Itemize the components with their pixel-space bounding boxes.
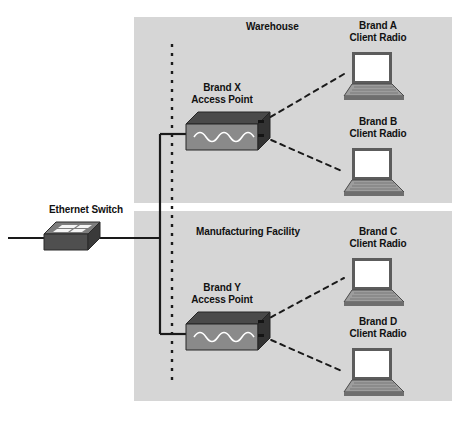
network-diagram: Warehouse Manufacturing Facility Etherne… [0, 0, 466, 422]
access-point-y-label-line1: Brand Y [182, 282, 262, 294]
client-radio-c-label-line2: Client Radio [340, 238, 416, 250]
client-radio-d-label-line1: Brand D [340, 316, 416, 328]
zone-label-manufacturing: Manufacturing Facility [196, 226, 300, 237]
client-radio-d-label-line2: Client Radio [340, 328, 416, 340]
access-point-x-label-line1: Brand X [182, 82, 262, 94]
ethernet-switch-label: Ethernet Switch [36, 204, 136, 216]
access-point-x-label-line2: Access Point [182, 94, 262, 106]
access-point-x-icon [186, 112, 270, 150]
client-radio-a-label-line2: Client Radio [340, 32, 416, 44]
client-radio-b-label-line2: Client Radio [340, 128, 416, 140]
zone-warehouse-panel [134, 17, 452, 203]
client-radio-c-label-line1: Brand C [340, 226, 416, 238]
ethernet-switch-icon [44, 222, 100, 250]
zone-label-warehouse: Warehouse [246, 21, 299, 32]
access-point-y-icon [186, 312, 270, 350]
access-point-y-label-line2: Access Point [182, 294, 262, 306]
client-radio-b-label-line1: Brand B [340, 116, 416, 128]
client-radio-a-label-line1: Brand A [340, 20, 416, 32]
